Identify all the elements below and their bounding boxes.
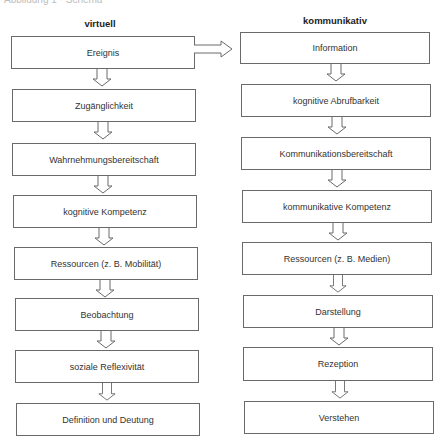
- box-definition-deutung: Definition und Deutung: [16, 403, 200, 436]
- box-kommunikationsbereitschaft: Kommunikationsbereitschaft: [241, 137, 431, 170]
- column-title-virtuell: virtuell: [60, 18, 140, 29]
- arrow-down-icon: [95, 280, 115, 298]
- column-title-kommunikativ: kommunikativ: [290, 15, 380, 26]
- box-kognitive-abrufbarkeit: kognitive Abrufbarkeit: [241, 84, 431, 117]
- box-beobachtung: Beobachtung: [15, 298, 199, 331]
- box-ereignis: Ereignis: [11, 36, 195, 69]
- box-kognitive-kompetenz: kognitive Kompetenz: [13, 195, 197, 228]
- box-ressourcen-medien: Ressourcen (z. B. Medien): [242, 242, 432, 275]
- figure-caption-clipped: Abbildung 1 · Schema: [4, 0, 102, 5]
- box-zugaenglichkeit: Zugänglichkeit: [12, 89, 196, 122]
- box-soziale-reflexivitaet: soziale Reflexivität: [15, 350, 199, 383]
- arrow-down-icon: [96, 331, 116, 349]
- arrow-down-icon: [330, 381, 350, 399]
- box-kommunikative-kompetenz: kommunikative Kompetenz: [242, 190, 432, 223]
- arrow-down-icon: [327, 117, 347, 135]
- arrow-down-icon: [329, 328, 349, 346]
- box-information: Information: [240, 32, 430, 64]
- arrow-down-icon: [93, 122, 113, 140]
- arrow-down-icon: [328, 223, 348, 241]
- arrow-down-icon: [327, 170, 347, 188]
- box-wahrnehmungsbereitschaft: Wahrnehmungsbereitschaft: [12, 143, 196, 176]
- box-verstehen: Verstehen: [244, 401, 434, 434]
- box-rezeption: Rezeption: [243, 347, 433, 381]
- arrow-down-icon: [92, 69, 112, 87]
- box-ressourcen-mobilitaet: Ressourcen (z. B. Mobilität): [14, 247, 198, 280]
- arrow-right-icon: [194, 40, 234, 58]
- arrow-down-icon: [97, 383, 117, 401]
- box-darstellung: Darstellung: [243, 295, 433, 328]
- arrow-down-icon: [328, 275, 348, 293]
- arrow-down-icon: [94, 228, 114, 246]
- arrow-down-icon: [326, 64, 346, 82]
- arrow-down-icon: [93, 176, 113, 194]
